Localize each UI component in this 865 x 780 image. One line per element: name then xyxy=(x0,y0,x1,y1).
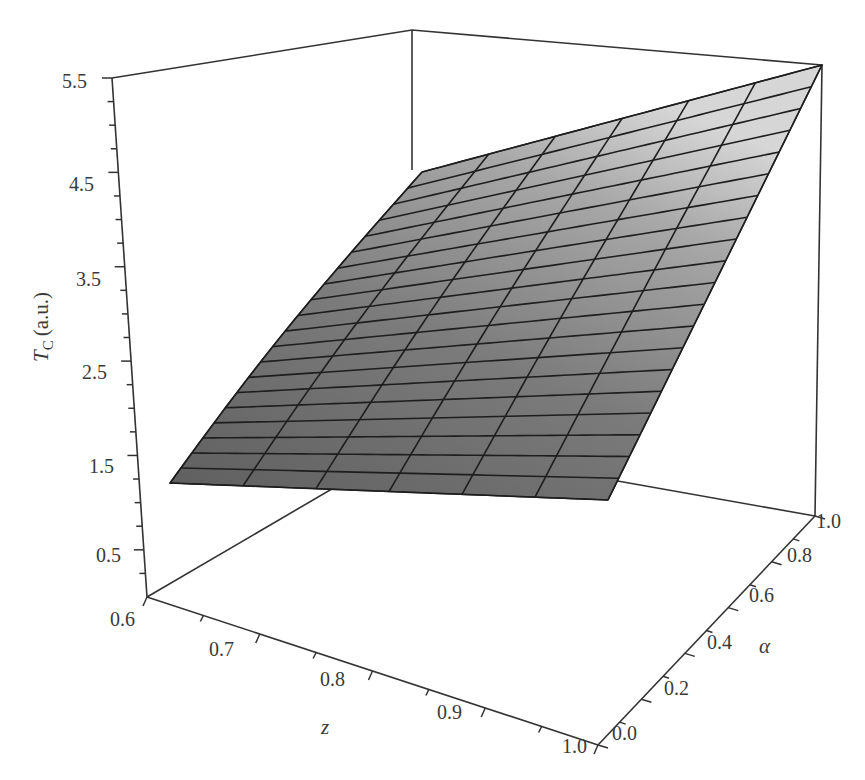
svg-text:TC(a.u.): TC(a.u.) xyxy=(29,292,56,362)
tc-tick-label: 2.5 xyxy=(82,361,107,383)
alpha-tick-label: 0.4 xyxy=(707,631,732,653)
tc-axis-title: TC(a.u.) xyxy=(29,292,56,362)
z-axis-title: z xyxy=(320,715,329,739)
alpha-axis-title: α xyxy=(759,634,771,658)
tc-tick-label: 4.5 xyxy=(69,173,94,195)
tc-tick-label: 3.5 xyxy=(76,268,101,290)
z-axis: 0.6 0.7 0.8 0.9 1.0 z xyxy=(110,597,598,757)
tc-tick-label: 5.5 xyxy=(62,70,87,92)
tc-tick-label: 1.5 xyxy=(89,455,114,477)
alpha-tick-label: 1.0 xyxy=(816,510,841,532)
alpha-axis: 0.0 0.2 0.4 0.6 0.8 1.0 α xyxy=(598,510,841,748)
z-tick-label: 1.0 xyxy=(562,735,587,757)
z-tick-label: 0.8 xyxy=(320,668,345,690)
alpha-tick-label: 0.0 xyxy=(612,722,637,744)
alpha-tick-label: 0.8 xyxy=(787,544,812,566)
alpha-tick-label: 0.6 xyxy=(749,584,774,606)
z-tick-label: 0.7 xyxy=(209,638,234,660)
surface xyxy=(170,65,822,500)
tc-axis: 5.5 4.5 3.5 2.5 1.5 0.5 TC(a.u.) xyxy=(29,70,147,597)
surface-plot: 5.5 4.5 3.5 2.5 1.5 0.5 TC(a.u.) 0.6 0.7… xyxy=(0,0,865,780)
alpha-tick-label: 0.2 xyxy=(664,677,689,699)
tc-tick-label: 0.5 xyxy=(96,544,121,566)
z-tick-label: 0.9 xyxy=(437,701,462,723)
z-tick-label: 0.6 xyxy=(110,608,135,630)
